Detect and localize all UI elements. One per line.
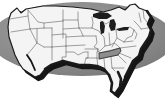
us-map-svg: Tennessee xyxy=(0,0,165,110)
us-map-graphic: Map of the United States xyxy=(0,0,165,110)
